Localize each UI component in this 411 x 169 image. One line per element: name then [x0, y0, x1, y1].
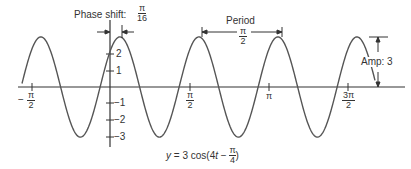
- plot-area: [0, 0, 411, 169]
- y-tick-2: 2: [116, 49, 122, 59]
- phase-shift-marker: [97, 25, 134, 38]
- x-tick-neg-pi-over-2: π 2: [27, 91, 35, 110]
- equation-label: y = 3 cos(4 t − π 4 ): [166, 146, 239, 165]
- eq-prefix: = 3 cos(4: [171, 150, 215, 161]
- eq-suffix: ): [236, 150, 239, 161]
- period-fraction: π 2: [239, 27, 247, 46]
- period-label: Period: [226, 16, 255, 26]
- y-tick-neg3: −3: [114, 132, 125, 142]
- phase-shift-fraction: π 16: [137, 4, 147, 23]
- phase-shift-label: Phase shift:: [74, 10, 126, 20]
- y-tick-neg2: −2: [114, 115, 125, 125]
- chart: Phase shift: π 16 Period π 2 Amp: 3 − π …: [0, 0, 411, 169]
- x-tick-3pi-over-2: 3π 2: [342, 91, 355, 110]
- eq-minus: −: [218, 150, 229, 161]
- tick-sign: −: [18, 95, 24, 105]
- y-tick-neg1: −1: [114, 98, 125, 108]
- y-tick-1: 1: [116, 66, 122, 76]
- amplitude-label: Amp: 3: [361, 57, 393, 67]
- x-tick-pi-over-2: π 2: [186, 91, 194, 110]
- x-tick-pi: π: [266, 92, 272, 101]
